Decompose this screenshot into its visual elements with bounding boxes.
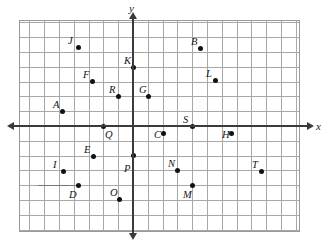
point-label-d: D <box>69 190 77 201</box>
point-label-l: L <box>206 69 212 80</box>
point-label-r: R <box>109 85 115 96</box>
point-label-p: P <box>124 164 130 175</box>
plotted-point-b <box>198 46 203 51</box>
point-label-g: G <box>139 85 147 96</box>
plotted-point-l <box>213 78 218 83</box>
point-label-s: S <box>183 115 188 126</box>
plotted-point-n <box>175 168 180 173</box>
point-label-q: Q <box>105 130 113 141</box>
x-axis-label: x <box>316 121 321 132</box>
plotted-point-j <box>76 45 81 50</box>
point-label-m: M <box>183 190 192 201</box>
point-label-k: K <box>124 56 131 67</box>
plotted-point-a <box>60 109 65 114</box>
point-label-i: I <box>53 160 57 171</box>
plotted-point-t <box>259 169 264 174</box>
point-label-o: O <box>110 188 118 199</box>
plotted-point-f <box>90 79 95 84</box>
point-label-c: C <box>154 130 161 141</box>
plotted-point-d <box>76 183 81 188</box>
point-label-e: E <box>84 145 90 156</box>
y-axis-label: y <box>129 3 134 14</box>
y-axis-down-arrow-icon <box>129 233 137 240</box>
point-label-f: F <box>83 70 89 81</box>
y-axis <box>132 18 134 234</box>
point-label-h: H <box>222 130 230 141</box>
plotted-point-e <box>91 154 96 159</box>
x-axis-left-arrow-icon <box>7 122 14 130</box>
stray-line-segment <box>38 185 78 186</box>
plotted-point-i <box>61 169 66 174</box>
point-label-n: N <box>168 159 175 170</box>
plotted-point-m <box>190 183 195 188</box>
plotted-point-r <box>116 94 121 99</box>
point-label-a: A <box>53 100 59 111</box>
plotted-point-c <box>161 131 166 136</box>
coordinate-plane-screenshot: ABCDEFGHIJKLMNOPQRST x y <box>0 0 325 248</box>
point-label-b: B <box>191 37 197 48</box>
point-label-j: J <box>68 36 73 47</box>
x-axis <box>13 125 308 127</box>
x-axis-right-arrow-icon <box>307 122 314 130</box>
point-label-t: T <box>252 160 258 171</box>
